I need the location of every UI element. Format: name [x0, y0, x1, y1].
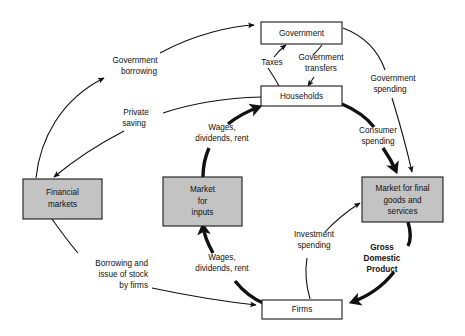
- market-final-goods-label-line2: goods and: [383, 196, 422, 205]
- label-consumer-spending: Consumer spending: [359, 126, 397, 146]
- wages-upper-line1: Wages,: [208, 123, 235, 132]
- consumer-spending-line1: Consumer: [359, 126, 397, 135]
- financial-markets-label-line2: markets: [48, 200, 77, 209]
- market-for-inputs-label-line2: for: [198, 197, 208, 206]
- label-gross-domestic-product: Gross Domestic Product: [364, 243, 401, 274]
- edge-investment-spending: [306, 203, 360, 299]
- label-government-transfers: Government transfers: [298, 53, 344, 73]
- label-investment-spending: Investment spending: [294, 230, 335, 250]
- government-label: Government: [279, 29, 325, 38]
- investment-spending-line2: spending: [297, 241, 331, 250]
- government-spending-line2: spending: [373, 85, 407, 94]
- diagram-canvas: Government Households Firms Financial ma…: [0, 0, 465, 336]
- wages-lower-line2: dividends, rent: [195, 264, 249, 273]
- gdp-line2: Domestic: [364, 254, 401, 263]
- financial-markets-label-line1: Financial: [46, 188, 79, 197]
- label-private-saving: Private saving: [122, 108, 149, 128]
- government-borrowing-line2: borrowing: [121, 67, 157, 76]
- borrowing-firms-line2: issue of stock: [98, 270, 149, 279]
- financial-markets-box[interactable]: [23, 179, 102, 219]
- label-government-borrowing: Government borrowing: [112, 56, 158, 76]
- wages-upper-line2: dividends, rent: [195, 134, 249, 143]
- edge-government-spending: [343, 28, 412, 172]
- wages-lower-line1: Wages,: [208, 253, 235, 262]
- node-households[interactable]: Households: [261, 86, 342, 106]
- private-saving-line2: saving: [122, 119, 146, 128]
- label-wages-lower: Wages, dividends, rent: [195, 253, 249, 273]
- firms-label: Firms: [292, 305, 312, 314]
- taxes-line1: Taxes: [261, 58, 282, 67]
- node-financial-markets[interactable]: Financial markets: [23, 179, 102, 219]
- investment-spending-line1: Investment: [294, 230, 335, 239]
- edge-government-borrowing: [36, 25, 254, 178]
- node-market-final-goods[interactable]: Market for final goods and services: [362, 177, 443, 222]
- borrowing-firms-line3: by firms: [119, 281, 148, 290]
- label-taxes: Taxes: [261, 58, 282, 67]
- label-government-spending: Government spending: [370, 74, 416, 94]
- node-market-for-inputs[interactable]: Market for inputs: [163, 177, 242, 226]
- gdp-line3: Product: [367, 265, 398, 274]
- market-for-inputs-label-line3: inputs: [192, 208, 214, 217]
- market-final-goods-label-line3: services: [387, 207, 417, 216]
- government-borrowing-line1: Government: [112, 56, 158, 65]
- government-transfers-line1: Government: [298, 53, 344, 62]
- borrowing-firms-line1: Borrowing and: [95, 259, 148, 268]
- gdp-line1: Gross: [370, 243, 394, 252]
- households-label: Households: [280, 92, 323, 101]
- node-firms[interactable]: Firms: [262, 300, 342, 319]
- market-for-inputs-label-line1: Market: [190, 185, 216, 194]
- edge-borrowing-issue-of-stock: [52, 219, 256, 305]
- label-wages-upper: Wages, dividends, rent: [195, 123, 249, 143]
- government-transfers-line2: transfers: [305, 64, 337, 73]
- consumer-spending-line2: spending: [361, 137, 395, 146]
- market-final-goods-label-line1: Market for final: [375, 184, 429, 193]
- node-government[interactable]: Government: [261, 22, 342, 44]
- label-borrowing-issue-of-stock: Borrowing and issue of stock by firms: [95, 259, 149, 290]
- circular-flow-diagram: Government Households Firms Financial ma…: [0, 0, 465, 336]
- private-saving-line1: Private: [123, 108, 149, 117]
- government-spending-line1: Government: [370, 74, 416, 83]
